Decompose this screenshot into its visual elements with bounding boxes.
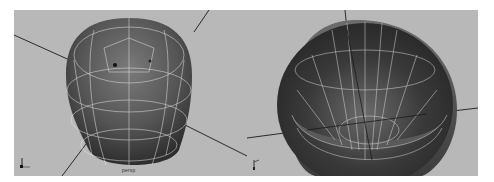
- camera-label: persp: [122, 167, 136, 173]
- viewport-left[interactable]: persp: [14, 10, 247, 176]
- mesh-interior-render: [247, 10, 478, 176]
- viewport-right[interactable]: [247, 10, 478, 176]
- mesh-exterior-render: [14, 10, 247, 176]
